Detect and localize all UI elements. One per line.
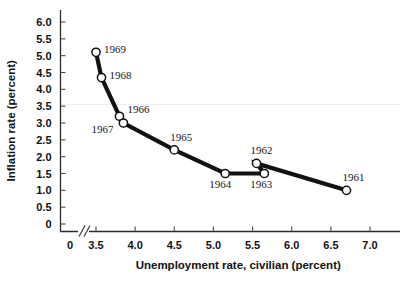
data-point-marker-1963 (260, 169, 268, 177)
y-tick-label: 3.0 (36, 117, 51, 129)
data-point-labels: 196919681966196719651964196319621961 (91, 43, 364, 189)
data-point-marker-1969 (92, 48, 100, 56)
series-path (96, 52, 347, 190)
x-axis-break-icon (78, 226, 90, 237)
y-tick-label: 3.5 (36, 100, 51, 112)
data-point-label-1966: 1966 (127, 103, 149, 115)
data-point-label-1968: 1968 (109, 69, 132, 81)
x-tick-label: 4.0 (127, 239, 142, 251)
data-point-label-1965: 1965 (170, 131, 193, 143)
x-tick-label: 0 (67, 239, 73, 251)
data-point-label-1969: 1969 (104, 43, 127, 55)
x-axis-ticks: 03.54.04.55.05.56.06.57.0 (67, 227, 378, 251)
data-point-marker-1968 (97, 73, 105, 81)
data-point-marker-1964 (221, 169, 229, 177)
data-point-marker-1965 (170, 146, 178, 154)
y-tick-label: 1.5 (36, 168, 51, 180)
y-tick-label: 2.0 (36, 151, 51, 163)
data-point-label-1962: 1962 (250, 144, 272, 156)
x-tick-label: 7.0 (362, 239, 377, 251)
x-tick-label: 5.5 (245, 239, 260, 251)
x-tick-label: 5.0 (206, 239, 221, 251)
y-tick-label: 5.0 (36, 50, 51, 62)
data-point-marker-1962 (252, 159, 260, 167)
data-point-label-1963: 1963 (250, 178, 273, 190)
x-tick-label: 6.5 (323, 239, 338, 251)
data-series-line (96, 52, 347, 190)
data-point-marker-1967 (119, 119, 127, 127)
x-tick-label: 6.0 (284, 239, 299, 251)
x-axis-title: Unemployment rate, civilian (percent) (136, 259, 341, 271)
x-tick-label: 3.5 (88, 239, 103, 251)
y-tick-label: 5.5 (36, 33, 51, 45)
x-tick-label: 4.5 (167, 239, 182, 251)
y-axis-title: Inflation rate (percent) (5, 60, 17, 182)
data-point-label-1967: 1967 (91, 123, 114, 135)
y-tick-label: 6.0 (36, 16, 51, 28)
y-tick-label: 1.0 (36, 184, 51, 196)
phillips-curve-chart: 00.51.01.52.02.53.03.54.04.55.05.56.0 03… (0, 0, 407, 286)
y-tick-label: 0 (45, 218, 51, 230)
data-point-label-1964: 1964 (209, 178, 232, 190)
y-tick-label: 2.5 (36, 134, 51, 146)
y-tick-label: 4.5 (36, 67, 51, 79)
data-point-marker-1961 (342, 186, 350, 194)
y-tick-label: 0.5 (36, 201, 51, 213)
data-point-label-1961: 1961 (343, 171, 365, 183)
chart-page: 00.51.01.52.02.53.03.54.04.55.05.56.0 03… (0, 0, 407, 286)
y-tick-label: 4.0 (36, 83, 51, 95)
